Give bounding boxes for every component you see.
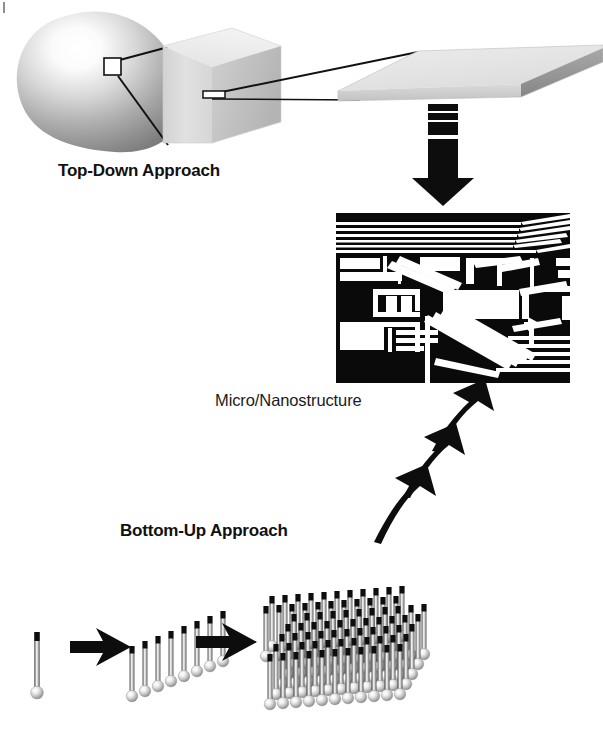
thin-film-slab — [338, 45, 603, 101]
curved-arrow-stack — [374, 379, 494, 544]
top-down-approach-label: Top-Down Approach — [58, 162, 220, 179]
single-nanowire — [31, 632, 44, 699]
micro-nanostructure-label: Micro/Nanostructure — [215, 392, 362, 409]
stage-arrow-2 — [196, 623, 257, 661]
nanowire-line — [126, 611, 229, 702]
downward-arrow — [412, 104, 474, 206]
diagram-graphics — [0, 0, 603, 735]
nanowire-array — [260, 586, 430, 710]
magnified-cube — [163, 28, 281, 143]
figure-canvas: Top-Down Approach Micro/Nanostructure Bo… — [0, 0, 603, 735]
stage-arrow-1 — [70, 628, 131, 666]
bottom-up-approach-label: Bottom-Up Approach — [120, 522, 288, 539]
micro-nanostructure-chip — [336, 213, 570, 383]
